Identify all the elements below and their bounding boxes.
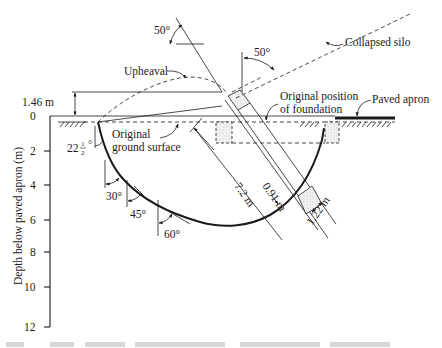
tangent-45 [134,186,150,202]
original-ground-leader [160,124,178,138]
paved-apron-label: Paved apron [372,93,429,106]
angle-50-left-label: 50° [154,24,171,36]
angle-45-label: 45° [130,208,147,220]
paved-apron-leader [357,100,371,116]
upheaval-curve [98,77,226,122]
angle-22-den: 2 [81,149,85,157]
tick-label-8: 8 [30,246,36,258]
tangent-60 [163,208,190,224]
original-position-leader [266,104,278,120]
original-ground-label-2: ground surface [112,141,181,154]
angle-22-whole: 22 [67,142,79,154]
original-position-label-1: Original position [280,90,359,103]
tick-label-4: 4 [30,179,36,191]
angle-arc-50-left [170,25,182,44]
original-position-label-2: of foundation [280,103,343,115]
angle-arc-30 [106,178,119,184]
depth-axis: 0 2 4 6 8 10 12 Depth below paved apron … [12,110,50,333]
caption-remnant [6,342,390,347]
dim-7-2-arrow-top [194,128,214,150]
tilted-foundation [228,90,250,110]
ground-hatch-left [58,122,86,127]
upheaval-height-label: 1.46 m [22,96,54,108]
angle-60-label: 60° [164,228,181,240]
tick-label-2: 2 [30,145,36,157]
upheaval-label: Upheaval [124,65,168,78]
angle-22-deg: ° [88,139,92,150]
heaved-surface-line [98,106,222,122]
tick-label-12: 12 [24,321,36,333]
angle-arc-50-right [244,58,274,70]
tick-label-0: 0 [30,110,36,122]
angle-arc-22 [95,141,103,146]
dimension-0-91-label: 0.91 m [260,180,288,213]
tick-label-6: 6 [30,214,36,226]
collapsed-silo-line-2 [232,77,262,92]
collapsed-silo-leader [326,42,343,46]
angle-50-right-label: 50° [254,46,271,58]
angle-arc-60 [159,214,172,223]
ground-hatch-right [300,122,391,127]
angle-30-label: 30° [106,190,123,202]
upheaval-leader [167,71,186,78]
angle-22-num: 1 [81,140,85,148]
tick-label-10: 10 [24,281,36,293]
failure-diagram: 0 2 4 6 8 10 12 Depth below paved apron … [0,0,442,348]
axis-title: Depth below paved apron (m) [12,147,25,285]
collapsed-silo-label: Collapsed silo [345,36,411,49]
original-ground-label-1: Original [112,128,150,141]
original-foundation-outline [216,122,339,143]
